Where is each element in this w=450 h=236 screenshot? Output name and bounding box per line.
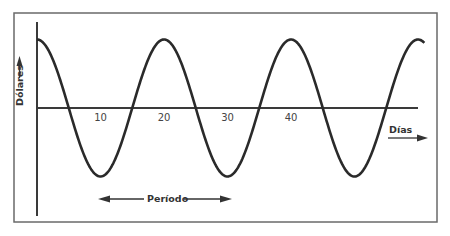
right-arrow-icon [220, 196, 232, 203]
y-axis-label-group: Dólares [14, 56, 25, 106]
x-tick-label: 20 [158, 112, 171, 123]
x-tick-label: 40 [285, 112, 298, 123]
cycle-diagram: 10203040 Dólares Días Período [0, 0, 450, 236]
period-annotation: Período [98, 193, 232, 204]
x-tick-labels: 10203040 [94, 112, 297, 123]
x-tick-label: 10 [94, 112, 107, 123]
up-arrow-icon [17, 56, 23, 66]
x-tick-label: 30 [221, 112, 234, 123]
right-arrow-icon [417, 135, 428, 142]
x-axis-label-group: Días [388, 124, 428, 142]
period-label: Período [147, 193, 189, 204]
x-axis-label: Días [389, 124, 413, 135]
